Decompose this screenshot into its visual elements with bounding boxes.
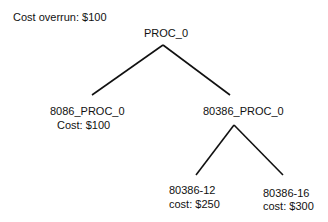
edge-80386-16 bbox=[234, 125, 283, 175]
node-80386-16-label: 80386-16 bbox=[263, 187, 310, 200]
node-80386-12-label: 80386-12 bbox=[169, 184, 216, 197]
node-80386-12-cost: cost: $250 bbox=[169, 198, 220, 211]
node-8086-label: 8086_PROC_0 bbox=[50, 105, 125, 118]
node-80386-16-cost: cost: $300 bbox=[263, 200, 314, 213]
cost-overrun-label: Cost overrun: $100 bbox=[13, 11, 107, 24]
edge-root-8086 bbox=[92, 45, 163, 95]
edge-root-80386 bbox=[163, 45, 230, 95]
edge-80386-12 bbox=[196, 125, 234, 175]
node-80386-label: 80386_PROC_0 bbox=[203, 105, 284, 118]
node-8086-cost: Cost: $100 bbox=[57, 119, 110, 132]
root-node-label: PROC_0 bbox=[144, 27, 188, 40]
